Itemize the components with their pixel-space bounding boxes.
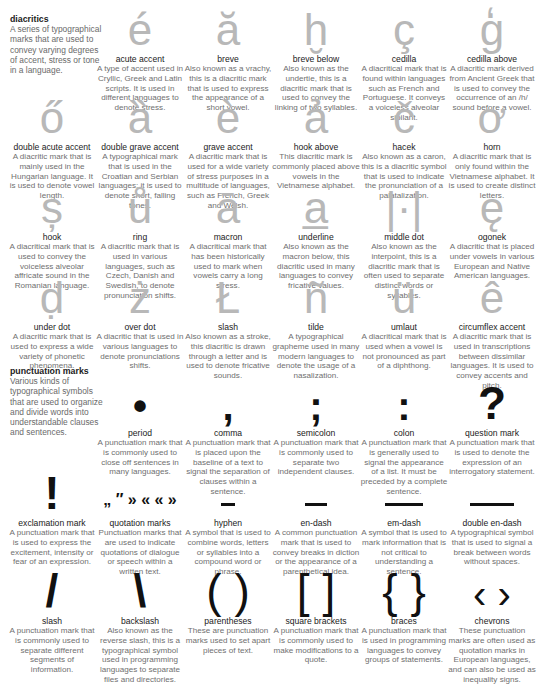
glyph-character: / (46, 568, 59, 614)
glyph-over-dot-icon: ż (96, 274, 184, 320)
entry-name: acute accent (96, 54, 184, 64)
glyph-backslash-icon: \ (96, 568, 184, 614)
glyph-character (470, 503, 514, 506)
glyph-breve-icon: ă (184, 6, 272, 52)
punctuation-entry-exclamation-mark: !exclamation markA punctuation mark that… (8, 470, 96, 567)
glyph-character: ș (41, 186, 63, 230)
entry-name: grave accent (184, 142, 272, 152)
diacritics-entry-slash: ŁslashAlso known as a stroke, this diacr… (184, 274, 272, 381)
glyph-semicolon-icon: ; (272, 380, 360, 426)
glyph-chevrons-icon: ‹ › (448, 568, 536, 614)
entry-name: comma (184, 428, 272, 438)
entry-name: double acute accent (8, 142, 96, 152)
diacritics-entry-under-dot: ḍunder dotA diacritic mark that is used … (8, 274, 96, 371)
glyph-character: è (216, 96, 240, 140)
entry-name: period (96, 428, 184, 438)
glyph-character: \ (134, 568, 147, 614)
entry-description: A punctuation mark that is commonly used… (8, 626, 96, 675)
glyph-slash-icon: / (8, 568, 96, 614)
diacritics-description: A series of typographical marks that are… (10, 24, 101, 75)
glyph-hook-above-icon: ả (272, 94, 360, 140)
glyph-character (385, 503, 423, 506)
glyph-hook-icon: ș (8, 184, 96, 230)
glyph-slash-icon: Ł (184, 274, 272, 320)
glyph-character: ñ (304, 276, 328, 320)
glyph-character: : (397, 386, 410, 426)
glyph-character (305, 503, 327, 506)
glyph-character: ů (128, 186, 152, 230)
glyph-character: ( ) (206, 568, 249, 614)
entry-name: square brackets (272, 616, 360, 626)
glyph-ogonek-icon: ę (448, 184, 536, 230)
glyph-macron-icon: ā (184, 184, 272, 230)
entry-description: A typographical symbol that is used to s… (448, 528, 536, 567)
glyph-character: é (128, 8, 152, 52)
glyph-character: ! (44, 470, 59, 516)
glyph-acute-accent-icon: é (96, 6, 184, 52)
glyph-character: |·| (385, 186, 423, 230)
entry-name: middle dot (360, 232, 448, 242)
entry-name: colon (360, 428, 448, 438)
glyph-grave-accent-icon: è (184, 94, 272, 140)
entry-name: cedilla above (448, 54, 536, 64)
glyph-character: a̲ (304, 186, 328, 230)
punctuation-entry-chevrons: ‹ ›chevronsThese punctuation marks are o… (448, 568, 536, 685)
glyph-character: ç (393, 8, 415, 52)
punctuation-entry-quotation-marks: „ ″ » « « »quotation marksPunctuation ma… (96, 470, 184, 577)
glyph-comma-icon: , (184, 380, 272, 426)
entry-name: en-dash (272, 518, 360, 528)
entry-name: breve below (272, 54, 360, 64)
punctuation-entry-parentheses: ( )parenthesesThese are punctuation mark… (184, 568, 272, 655)
glyph-character: ă (216, 8, 240, 52)
entry-name: circumflex accent (448, 322, 536, 332)
entry-name: macron (184, 232, 272, 242)
glyph-ring-icon: ů (96, 184, 184, 230)
entry-description: A punctuation mark that is used in progr… (360, 626, 448, 665)
glyph-question-mark-icon: ? (448, 380, 536, 426)
glyph-quotation-marks-icon: „ ″ » « « » (96, 470, 184, 516)
glyph-horn-icon: ơ (448, 94, 536, 140)
glyph-underline-icon: a̲ (272, 184, 360, 230)
punctuation-description: Various kinds of typographical symbols t… (10, 376, 103, 437)
glyph-en-dash-icon (272, 470, 360, 516)
glyph-square-brackets-icon: [ ] (272, 568, 360, 614)
entry-name: semicolon (272, 428, 360, 438)
diacritics-entry-hook-above: ảhook aboveThis diacritic mark is common… (272, 94, 360, 191)
entry-name: question mark (448, 428, 536, 438)
entry-description: A punctuation mark that is used to expre… (8, 528, 96, 567)
glyph-middle-dot-icon: |·| (360, 184, 448, 230)
entry-description: Also known as the reverse slash, this is… (96, 626, 184, 685)
entry-name: underline (272, 232, 360, 242)
entry-name: umlaut (360, 322, 448, 332)
punctuation-entry-period: •periodA punctuation mark that is common… (96, 380, 184, 477)
glyph-colon-icon: : (360, 380, 448, 426)
glyph-cedilla-above-icon: g̒ (448, 6, 536, 52)
punctuation-entry-backslash: \backslashAlso known as the reverse slas… (96, 568, 184, 685)
glyph-under-dot-icon: ḍ (8, 274, 96, 320)
entry-description: These are punctuation marks used to set … (184, 626, 272, 655)
glyph-character: , (222, 386, 233, 426)
glyph-tilde-icon: ñ (272, 274, 360, 320)
glyph-umlaut-icon: ü (360, 274, 448, 320)
glyph-character: • (133, 386, 147, 426)
punctuation-entry-en-dash: en-dashA common punctuation mark that is… (272, 470, 360, 577)
glyph-double-grave-accent-icon: ȁ (96, 94, 184, 140)
glyph-character: ő (40, 96, 64, 140)
glyph-breve-below-icon: ḫ (272, 6, 360, 52)
entry-name: horn (448, 142, 536, 152)
entry-description: Also known as a stroke, this diacritic i… (184, 332, 272, 381)
entry-name: parentheses (184, 616, 272, 626)
punctuation-entry-question-mark: ?question markA punctuation mark that is… (448, 380, 536, 477)
entry-name: slash (8, 616, 96, 626)
glyph-parentheses-icon: ( ) (184, 568, 272, 614)
diacritics-entry-ogonek: ęogonekA diacritic that is placed under … (448, 184, 536, 281)
glyph-character (221, 503, 235, 506)
glyph-double-acute-accent-icon: ő (8, 94, 96, 140)
entry-name: double en-dash (448, 518, 536, 528)
punctuation-entry-slash: /slashA punctuation mark that is commonl… (8, 568, 96, 675)
entry-name: hacek (360, 142, 448, 152)
glyph-character: ḫ (304, 8, 328, 52)
glyph-character: „ ″ » « « » (103, 492, 176, 508)
entry-name: exclamation mark (8, 518, 96, 528)
